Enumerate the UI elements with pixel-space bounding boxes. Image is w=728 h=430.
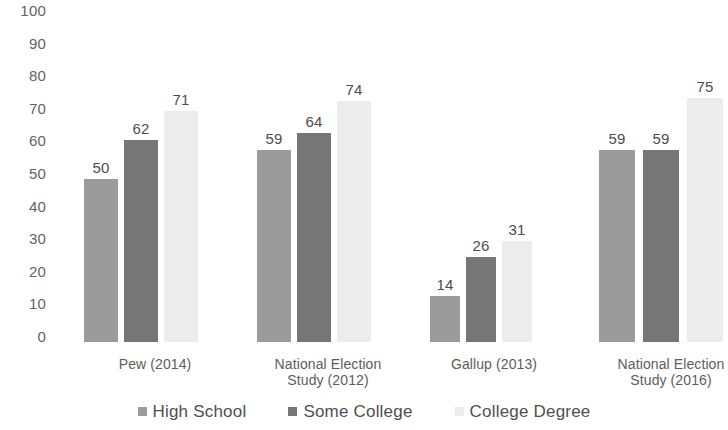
bar-value-label: 71 xyxy=(172,92,189,107)
category-label-line: National Election xyxy=(240,356,416,372)
bar[interactable] xyxy=(164,111,198,342)
bar-group: 142631 xyxy=(430,0,558,352)
y-axis-tick-50: 50 xyxy=(0,166,46,181)
bar-value-label: 62 xyxy=(132,121,149,136)
category-label-line: Gallup (2013) xyxy=(417,356,571,372)
bar-group: 595975 xyxy=(599,0,728,352)
bar-value-label: 59 xyxy=(265,131,282,146)
bar-value-label: 75 xyxy=(696,79,713,94)
bar[interactable] xyxy=(337,101,371,342)
y-axis-tick-80: 80 xyxy=(0,68,46,83)
bar-slot: 64 xyxy=(297,16,331,342)
grouped-bar-chart: 1009080706050403020100 506271Pew (2014)5… xyxy=(0,0,728,430)
legend-item[interactable]: College Degree xyxy=(455,402,591,421)
bar[interactable] xyxy=(257,150,291,342)
bar[interactable] xyxy=(84,179,118,342)
bar-slot: 26 xyxy=(466,16,496,342)
x-axis-category-label: National ElectionStudy (2016) xyxy=(582,356,728,388)
bar-value-label: 59 xyxy=(608,131,625,146)
bar-value-label: 74 xyxy=(345,82,362,97)
legend-label: High School xyxy=(153,402,247,421)
bar-value-label: 50 xyxy=(92,160,109,175)
category-label-line: Pew (2014) xyxy=(67,356,243,372)
x-axis-category-label: Pew (2014) xyxy=(67,356,243,372)
legend-swatch-icon xyxy=(138,407,147,416)
bar[interactable] xyxy=(124,140,158,342)
legend-label: College Degree xyxy=(470,402,591,421)
bar-slot: 75 xyxy=(687,16,723,342)
legend-swatch-icon xyxy=(288,407,297,416)
bar[interactable] xyxy=(502,241,532,342)
bar-slot: 74 xyxy=(337,16,371,342)
x-axis-category-label: National ElectionStudy (2012) xyxy=(240,356,416,388)
bar-value-label: 14 xyxy=(436,277,453,292)
bar[interactable] xyxy=(643,150,679,342)
legend-swatch-icon xyxy=(455,407,464,416)
bar-slot: 71 xyxy=(164,16,198,342)
bar-value-label: 64 xyxy=(305,114,322,129)
bar-slot: 31 xyxy=(502,16,532,342)
legend-label: Some College xyxy=(303,402,412,421)
category-label-line: Study (2016) xyxy=(582,372,728,388)
bar[interactable] xyxy=(599,150,635,342)
y-axis-tick-20: 20 xyxy=(0,264,46,279)
bar-group-bars: 142631 xyxy=(430,16,558,342)
bar[interactable] xyxy=(687,98,723,343)
bar-slot: 59 xyxy=(599,16,635,342)
bar-slot: 50 xyxy=(84,16,118,342)
bar[interactable] xyxy=(466,257,496,342)
y-axis-tick-10: 10 xyxy=(0,296,46,311)
legend-item[interactable]: High School xyxy=(138,402,247,421)
x-axis-category-label: Gallup (2013) xyxy=(417,356,571,372)
bar-group-bars: 595975 xyxy=(599,16,728,342)
bar-slot: 14 xyxy=(430,16,460,342)
bar-value-label: 59 xyxy=(652,131,669,146)
category-label-line: National Election xyxy=(582,356,728,372)
y-axis-tick-40: 40 xyxy=(0,199,46,214)
bar[interactable] xyxy=(297,133,331,342)
legend-item[interactable]: Some College xyxy=(288,402,412,421)
bar-value-label: 31 xyxy=(508,222,525,237)
bar-group: 596474 xyxy=(257,0,399,352)
chart-legend: High SchoolSome CollegeCollege Degree xyxy=(0,402,728,421)
y-axis: 1009080706050403020100 xyxy=(0,0,62,352)
bar-slot: 62 xyxy=(124,16,158,342)
bar-group-bars: 596474 xyxy=(257,16,399,342)
y-axis-tick-0: 0 xyxy=(0,329,46,344)
bar-slot: 59 xyxy=(643,16,679,342)
bar-group-bars: 506271 xyxy=(84,16,226,342)
y-axis-tick-90: 90 xyxy=(0,36,46,51)
y-axis-tick-100: 100 xyxy=(0,3,46,18)
y-axis-tick-30: 30 xyxy=(0,231,46,246)
y-axis-tick-70: 70 xyxy=(0,101,46,116)
y-axis-tick-60: 60 xyxy=(0,133,46,148)
bar-group: 506271 xyxy=(84,0,226,352)
bar[interactable] xyxy=(430,296,460,342)
bar-value-label: 26 xyxy=(472,238,489,253)
bar-slot: 59 xyxy=(257,16,291,342)
category-label-line: Study (2012) xyxy=(240,372,416,388)
plot-area: 506271Pew (2014)596474National ElectionS… xyxy=(62,0,728,352)
